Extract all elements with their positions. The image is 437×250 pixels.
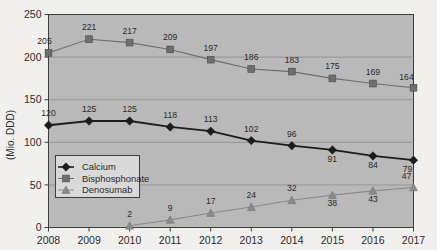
series-marker-bisphosphonate <box>410 84 417 91</box>
series-marker-bisphosphonate <box>167 46 174 53</box>
y-tick-label: 250 <box>24 8 42 20</box>
data-label: 125 <box>122 104 137 114</box>
data-label: 209 <box>163 32 178 42</box>
legend-label: Denosumab <box>82 184 133 195</box>
x-tick-label: 2010 <box>118 234 142 246</box>
data-label: 118 <box>163 110 177 120</box>
data-label: 164 <box>399 72 414 82</box>
data-label: 43 <box>368 194 378 204</box>
x-tick-label: 2008 <box>37 234 61 246</box>
series-marker-bisphosphonate <box>370 80 377 87</box>
data-label: 9 <box>168 203 173 213</box>
series-marker-bisphosphonate <box>86 36 93 43</box>
series-marker-bisphosphonate <box>126 39 133 46</box>
chart-page: 050100150200250 200820092010201120122013… <box>0 0 437 250</box>
x-tick-label: 2014 <box>280 234 304 246</box>
x-axis: 2008200920102011201220132014201520162017 <box>37 228 426 246</box>
data-label: 47 <box>402 171 412 181</box>
data-label: 24 <box>246 190 256 200</box>
y-tick-label: 0 <box>36 221 42 233</box>
x-tick-label: 2013 <box>240 234 264 246</box>
data-label: 96 <box>287 129 297 139</box>
y-tick-label: 200 <box>24 51 42 63</box>
chart-legend[interactable]: CalciumBisphosphonateDenosumab <box>56 156 150 198</box>
y-axis-title: (Mio. DDD) <box>5 110 16 160</box>
legend-label: Calcium <box>82 161 116 172</box>
x-tick-label: 2015 <box>321 234 345 246</box>
series-marker-bisphosphonate <box>45 49 52 56</box>
x-tick-label: 2012 <box>199 234 223 246</box>
y-tick-label: 150 <box>24 93 42 105</box>
data-label: 102 <box>244 124 259 134</box>
x-tick-label: 2016 <box>361 234 385 246</box>
data-label: 186 <box>244 52 259 62</box>
data-label: 32 <box>287 183 297 193</box>
data-label: 205 <box>37 36 52 46</box>
x-tick-label: 2011 <box>159 234 182 246</box>
data-label: 175 <box>325 61 340 71</box>
square-marker-icon <box>63 175 70 182</box>
data-label: 217 <box>122 26 137 36</box>
data-label: 183 <box>285 55 300 65</box>
data-label: 197 <box>204 43 219 53</box>
line-chart: 050100150200250 200820092010201120122013… <box>0 0 437 250</box>
data-label: 17 <box>206 196 216 206</box>
data-label: 91 <box>328 154 338 164</box>
data-label: 125 <box>82 104 97 114</box>
data-label: 221 <box>82 22 97 32</box>
series-marker-bisphosphonate <box>207 56 214 63</box>
x-tick-label: 2009 <box>77 234 101 246</box>
x-tick-label: 2017 <box>402 234 426 246</box>
data-label: 169 <box>366 67 381 77</box>
series-marker-bisphosphonate <box>329 75 336 82</box>
y-tick-label: 50 <box>30 179 42 191</box>
y-tick-label: 100 <box>24 136 42 148</box>
data-label: 38 <box>328 198 338 208</box>
series-marker-bisphosphonate <box>248 66 255 73</box>
data-label: 113 <box>204 114 218 124</box>
data-label: 84 <box>368 160 378 170</box>
series-marker-bisphosphonate <box>288 68 295 75</box>
data-label: 2 <box>127 209 132 219</box>
legend-label: Bisphosphonate <box>82 173 149 184</box>
data-label: 120 <box>41 108 56 118</box>
